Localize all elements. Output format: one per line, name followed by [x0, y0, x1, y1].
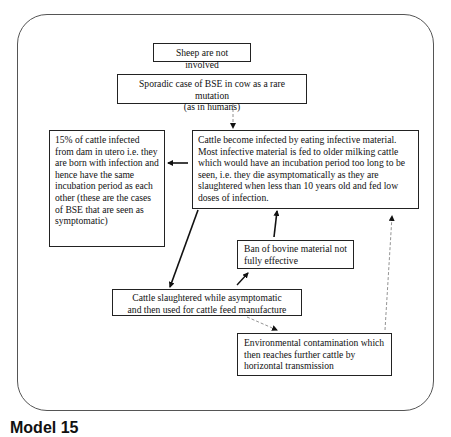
box-sporadic-case: Sporadic case of BSE in cow as a rare mu…: [117, 74, 307, 104]
box-in-utero-infection: 15% of cattle infected from dam in utero…: [49, 130, 165, 247]
arrow-ban-to-feed: [274, 211, 277, 237]
box-slaughtered-feed: Cattle slaughtered while asymptomatic an…: [112, 289, 302, 316]
box-environmental-contamination: Environmental contamination which then r…: [237, 333, 392, 376]
box-infective-feed: Cattle become infected by eating infecti…: [192, 130, 419, 209]
arrow-slaughtered-to-environmental: [247, 317, 277, 330]
arrow-slaughtered-to-ban: [237, 273, 248, 285]
box-sheep-not-involved: Sheep are not involved: [153, 43, 251, 62]
arrow-environmental-to-feed: [385, 216, 392, 330]
arrow-feed-to-slaughtered: [170, 210, 198, 287]
box-ban-not-effective: Ban of bovine material not fully effecti…: [237, 240, 354, 269]
figure-caption: Model 15: [10, 419, 78, 437]
